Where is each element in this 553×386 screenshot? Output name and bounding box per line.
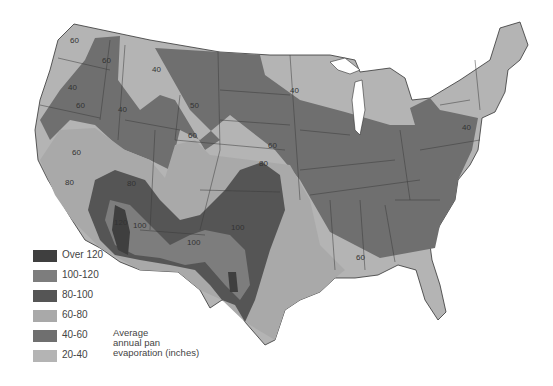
legend-swatch [33, 350, 57, 362]
legend-label: 40-60 [62, 329, 88, 340]
legend-title: Average annual pan evaporation (inches) [113, 328, 213, 358]
legend-item-over-120: Over 120 [33, 250, 153, 264]
legend-label: 100-120 [62, 269, 99, 280]
legend-label: 80-100 [62, 289, 93, 300]
svg-text:40: 40 [290, 86, 299, 95]
svg-text:50: 50 [190, 101, 199, 110]
legend-label: 60-80 [62, 309, 88, 320]
svg-text:60: 60 [102, 56, 111, 65]
legend-title-line: evaporation (inches) [113, 348, 213, 358]
legend-swatch [33, 330, 57, 342]
legend-swatch [33, 250, 57, 262]
svg-text:40: 40 [118, 105, 127, 114]
svg-text:60: 60 [76, 101, 85, 110]
svg-text:80: 80 [259, 159, 268, 168]
svg-text:40: 40 [68, 83, 77, 92]
svg-text:60: 60 [188, 131, 197, 140]
svg-text:60: 60 [356, 253, 365, 262]
svg-text:100: 100 [133, 221, 147, 230]
legend-item-80-100: 80-100 [33, 290, 153, 304]
svg-text:120: 120 [114, 218, 128, 227]
svg-text:60: 60 [72, 148, 81, 157]
legend-swatch [33, 270, 57, 282]
legend-item-100-120: 100-120 [33, 270, 153, 284]
legend-swatch [33, 290, 57, 302]
svg-text:40: 40 [152, 65, 161, 74]
svg-text:40: 40 [462, 123, 471, 132]
svg-text:60: 60 [268, 141, 277, 150]
legend-label: Over 120 [62, 249, 103, 260]
svg-text:60: 60 [70, 36, 79, 45]
svg-text:80: 80 [65, 178, 74, 187]
svg-text:100: 100 [231, 223, 245, 232]
svg-text:80: 80 [127, 179, 136, 188]
legend-swatch [33, 310, 57, 322]
legend-label: 20-40 [62, 349, 88, 360]
svg-text:100: 100 [187, 238, 201, 247]
legend-item-60-80: 60-80 [33, 310, 153, 324]
